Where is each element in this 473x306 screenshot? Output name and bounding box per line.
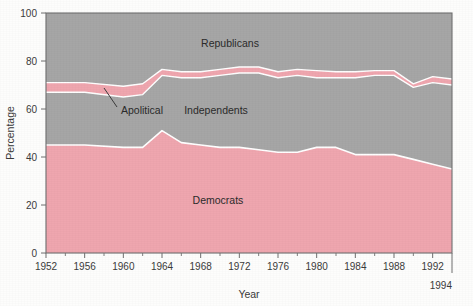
y-axis-title: Percentage <box>4 106 16 160</box>
y-tick-label-100: 100 <box>20 8 37 19</box>
x-tick-label-1992: 1992 <box>422 261 445 272</box>
x-tick-label-1968: 1968 <box>190 261 213 272</box>
stacked-area-chart: 1952195619601964196819721976198019841988… <box>0 0 473 306</box>
x-tick-label-1988: 1988 <box>383 261 406 272</box>
annotation-label-apolitical: Apolitical <box>121 104 163 116</box>
x-axis-end-label: 1994 <box>430 280 453 291</box>
y-tick-label-0: 0 <box>31 248 37 259</box>
x-tick-label-1972: 1972 <box>228 261 251 272</box>
x-tick-label-1960: 1960 <box>112 261 135 272</box>
x-tick-label-1952: 1952 <box>35 261 58 272</box>
x-tick-label-1964: 1964 <box>151 261 174 272</box>
x-axis-title: Year <box>238 288 260 300</box>
y-tick-label-40: 40 <box>26 152 38 163</box>
x-tick-label-1984: 1984 <box>344 261 367 272</box>
x-tick-label-1956: 1956 <box>74 261 97 272</box>
series-label-democrats: Democrats <box>193 194 244 206</box>
x-tick-label-1980: 1980 <box>306 261 329 272</box>
series-label-independents: Independents <box>184 104 248 116</box>
y-tick-label-20: 20 <box>26 200 38 211</box>
y-axis-tick-labels: 020406080100 <box>20 8 37 259</box>
y-axis-ticks <box>41 13 46 253</box>
series-label-republicans: Republicans <box>201 37 259 49</box>
x-axis-tick-labels: 1952195619601964196819721976198019841988… <box>35 261 444 272</box>
y-tick-label-80: 80 <box>26 56 38 67</box>
y-tick-label-60: 60 <box>26 104 38 115</box>
area-band-group <box>46 13 452 253</box>
chart-figure: 1952195619601964196819721976198019841988… <box>0 0 473 306</box>
x-tick-label-1976: 1976 <box>267 261 290 272</box>
